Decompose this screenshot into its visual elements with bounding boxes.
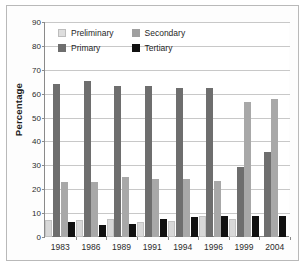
legend-label: Secondary (145, 28, 186, 38)
bar-preliminary-1999 (229, 219, 236, 237)
y-tick-label: 20 (32, 185, 41, 194)
bar-tertiary-2004 (279, 216, 286, 237)
y-tick-label: 50 (32, 113, 41, 122)
bar-primary-1994 (176, 88, 183, 237)
bar-group (137, 22, 167, 237)
x-tick-label-1994: 1994 (173, 242, 192, 252)
x-tick-label-1991: 1991 (143, 242, 162, 252)
bar-preliminary-1991 (137, 222, 144, 237)
legend-swatch-secondary-icon (132, 29, 140, 37)
bar-secondary-1986 (91, 182, 98, 237)
legend-item-secondary[interactable]: Secondary (132, 28, 186, 38)
x-tick-label-1983: 1983 (51, 242, 70, 252)
bar-group (45, 22, 75, 237)
bar-secondary-1983 (61, 182, 68, 237)
bar-primary-1999 (237, 167, 244, 237)
bar-tertiary-1996 (221, 216, 228, 237)
y-tick-label: 60 (32, 89, 41, 98)
bars-layer (45, 22, 290, 237)
x-tick-mark (198, 237, 199, 240)
bar-secondary-1996 (214, 181, 221, 237)
y-tick-label: 90 (32, 18, 41, 27)
x-tick-mark (229, 237, 230, 240)
x-tick-label-1999: 1999 (235, 242, 254, 252)
chart-figure: Percentage 0102030405060708090 198319861… (0, 0, 305, 268)
bar-tertiary-1994 (191, 217, 198, 237)
bar-primary-1991 (145, 86, 152, 237)
chart-legend: PreliminarySecondaryPrimaryTertiary (58, 28, 185, 53)
y-tick-label: 10 (32, 209, 41, 218)
x-tick-mark (290, 237, 291, 240)
legend-swatch-tertiary-icon (132, 44, 140, 52)
bar-primary-2004 (264, 152, 271, 237)
bar-group (199, 22, 229, 237)
x-tick-label-2004: 2004 (265, 242, 284, 252)
bar-tertiary-1991 (160, 219, 167, 237)
legend-item-tertiary[interactable]: Tertiary (132, 43, 186, 53)
bar-primary-1983 (53, 84, 60, 237)
plot-area: 0102030405060708090 19831986198919911994… (44, 22, 289, 237)
y-tick-mark (42, 237, 45, 238)
bar-preliminary-1994 (168, 221, 175, 237)
bar-tertiary-1999 (252, 216, 259, 237)
bar-group (107, 22, 137, 237)
x-tick-label-1996: 1996 (204, 242, 223, 252)
bar-group (264, 22, 286, 237)
x-tick-mark (137, 237, 138, 240)
bar-secondary-1999 (244, 102, 251, 237)
bar-group (168, 22, 198, 237)
y-tick-label: 30 (32, 161, 41, 170)
legend-label: Tertiary (145, 43, 173, 53)
bar-preliminary-1996 (199, 216, 206, 237)
bar-secondary-2004 (271, 99, 278, 237)
y-axis-title: Percentage (13, 65, 24, 155)
legend-swatch-primary-icon (58, 44, 66, 52)
legend-item-primary[interactable]: Primary (58, 43, 114, 53)
bar-tertiary-1983 (68, 222, 75, 237)
legend-label: Preliminary (71, 28, 114, 38)
bar-preliminary-1983 (45, 220, 52, 237)
x-tick-label-1989: 1989 (112, 242, 131, 252)
bar-secondary-1989 (122, 177, 129, 237)
bar-secondary-1994 (183, 179, 190, 237)
bar-preliminary-1986 (76, 220, 83, 237)
legend-label: Primary (71, 43, 100, 53)
bar-group (76, 22, 106, 237)
y-tick-label: 0 (37, 233, 41, 242)
y-tick-label: 80 (32, 41, 41, 50)
x-tick-mark (106, 237, 107, 240)
bar-preliminary-1989 (107, 219, 114, 237)
legend-item-preliminary[interactable]: Preliminary (58, 28, 114, 38)
bar-primary-1996 (206, 88, 213, 237)
y-tick-label: 70 (32, 65, 41, 74)
x-tick-mark (168, 237, 169, 240)
legend-swatch-preliminary-icon (58, 29, 66, 37)
bar-group (229, 22, 259, 237)
bar-tertiary-1986 (99, 225, 106, 237)
bar-primary-1986 (84, 81, 91, 237)
bar-secondary-1991 (152, 179, 159, 237)
x-tick-mark (76, 237, 77, 240)
y-tick-label: 40 (32, 137, 41, 146)
x-tick-label-1986: 1986 (81, 242, 100, 252)
bar-tertiary-1989 (129, 224, 136, 237)
x-tick-mark (259, 237, 260, 240)
bar-primary-1989 (114, 86, 121, 237)
